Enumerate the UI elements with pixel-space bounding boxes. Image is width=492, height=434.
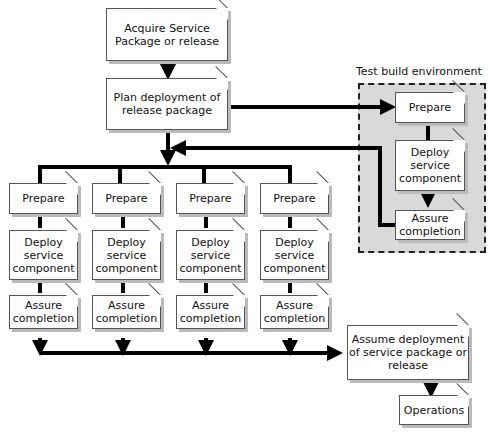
col3-assure: Assure completion: [176, 295, 245, 329]
col2-prepare: Prepare: [92, 183, 161, 214]
assume-box: Assume deployment of service package or …: [347, 325, 469, 380]
col1-deploy: Deploy service component: [9, 230, 78, 280]
plan-box: Plan deployment of release package: [106, 78, 228, 130]
operations-box: Operations: [399, 395, 469, 425]
col1-assure: Assure completion: [9, 295, 78, 329]
col3-deploy: Deploy service component: [176, 230, 245, 280]
test-assure-box: Assure completion: [395, 210, 465, 240]
col4-prepare: Prepare: [260, 183, 329, 214]
acquire-box: Acquire Service Package or release: [106, 8, 228, 61]
col2-assure: Assure completion: [92, 295, 161, 329]
test-prepare-box: Prepare: [395, 92, 465, 123]
col4-deploy: Deploy service component: [260, 230, 329, 280]
col1-prepare: Prepare: [9, 183, 78, 214]
col2-deploy: Deploy service component: [92, 230, 161, 280]
col4-assure: Assure completion: [260, 295, 329, 329]
test-deploy-box: Deploy service component: [395, 140, 465, 191]
col3-prepare: Prepare: [176, 183, 245, 214]
